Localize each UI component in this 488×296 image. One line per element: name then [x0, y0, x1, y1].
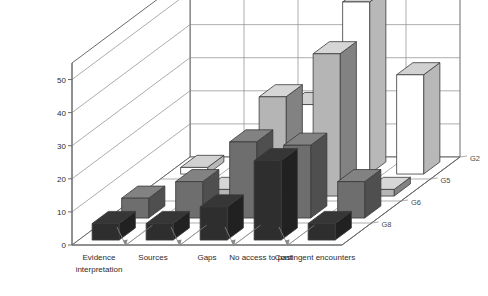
depth-axis-label: G6	[411, 198, 421, 207]
bar	[200, 195, 243, 240]
bar	[397, 63, 440, 174]
bar-front-face	[92, 224, 119, 241]
bar-side-face	[370, 0, 386, 174]
depth-tick	[460, 156, 467, 157]
category-label: Sources	[138, 253, 167, 262]
category-label: Contingent encounters	[275, 253, 356, 262]
chart-canvas: 01020304050EvidenceinterpretationSources…	[0, 0, 488, 296]
category-label: Gaps	[197, 253, 216, 262]
depth-axis-label: G8	[382, 220, 392, 229]
bar-side-face	[311, 133, 327, 218]
category-label: Evidence	[83, 253, 116, 262]
bar	[338, 170, 381, 219]
bar	[254, 149, 297, 241]
bar-front-face	[254, 161, 281, 240]
depth-axis-label: G2	[470, 154, 480, 163]
value-tick-label: 0	[62, 241, 67, 250]
value-tick-label: 50	[57, 76, 66, 85]
bar-front-face	[146, 224, 173, 241]
category-label-line2: interpretation	[76, 265, 123, 274]
chart-walls: 01020304050EvidenceinterpretationSources…	[57, 0, 480, 274]
bar-side-face	[281, 149, 297, 241]
depth-axis-label: G5	[441, 176, 451, 185]
value-tick-label: 10	[57, 208, 66, 217]
bar-front-face	[308, 224, 335, 241]
value-tick-label: 40	[57, 109, 66, 118]
value-tick-label: 20	[57, 175, 66, 184]
value-tick-label: 30	[57, 142, 66, 151]
bar-front-face	[200, 207, 227, 240]
bar-front-face	[397, 75, 424, 174]
chart-3d-bar: 01020304050EvidenceinterpretationSources…	[0, 0, 488, 296]
bar-side-face	[424, 63, 440, 174]
